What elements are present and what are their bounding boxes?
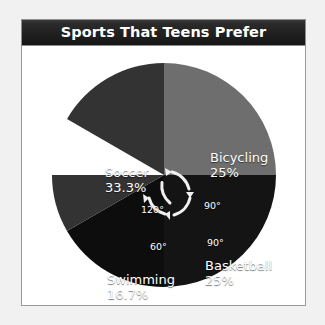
angle-label-swimming: 60°	[150, 242, 167, 252]
chart-frame: Soccer 33.3% Bicycling 25% Basketball 25…	[21, 46, 306, 306]
slice-label-swimming: Swimming 16.7%	[107, 272, 175, 302]
pie-slice-soccer[interactable]	[67, 63, 164, 175]
angle-label-basketball: 90°	[207, 238, 224, 248]
chart-title-bar: Sports That Teens Prefer	[21, 19, 306, 46]
angle-label-soccer: 120°	[141, 205, 164, 215]
slice-label-swimming-percent: 16.7%	[107, 287, 175, 302]
slice-label-bicycling-name: Bicycling	[210, 150, 268, 165]
slice-label-soccer: Soccer 33.3%	[105, 165, 149, 195]
page-title: Sports That Teens Prefer	[61, 25, 266, 40]
slice-label-soccer-name: Soccer	[105, 165, 149, 180]
screenshot-canvas: Sports That Teens Prefer	[0, 0, 325, 325]
slice-label-basketball-percent: 25%	[205, 273, 272, 288]
slice-label-bicycling-percent: 25%	[210, 165, 268, 180]
slice-label-bicycling: Bicycling 25%	[210, 150, 268, 180]
slice-label-basketball-name: Basketball	[205, 258, 272, 273]
slice-label-swimming-name: Swimming	[107, 272, 175, 287]
slice-label-soccer-percent: 33.3%	[105, 180, 149, 195]
angle-label-bicycling: 90°	[204, 201, 221, 211]
slice-label-basketball: Basketball 25%	[205, 258, 272, 288]
